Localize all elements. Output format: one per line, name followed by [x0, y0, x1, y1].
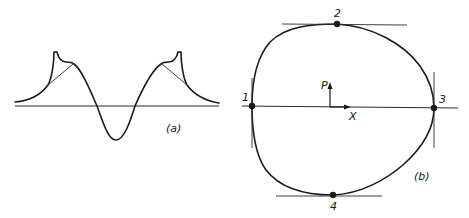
x-axis-label: X — [348, 110, 357, 123]
panel-a-label: (a) — [166, 122, 181, 135]
point-3-marker — [431, 105, 437, 111]
panel-b-label: (b) — [414, 170, 430, 183]
tangent-line-2 — [282, 24, 407, 25]
point-1-marker — [249, 103, 255, 109]
point-4-label: 4 — [330, 200, 337, 213]
figure-canvas: (a) 1 2 3 4 P X (b) — [0, 0, 469, 218]
point-2-marker — [334, 21, 340, 27]
panel-b-closed-curve — [252, 24, 434, 195]
point-1-label: 1 — [242, 91, 249, 104]
p-arrow-icon — [328, 82, 333, 89]
x-arrow-icon — [344, 105, 351, 110]
point-2-label: 2 — [334, 7, 341, 20]
panel-a-waveform — [15, 52, 219, 140]
panel-b: 1 2 3 4 P X (b) — [242, 7, 458, 213]
p-axis-label: P — [321, 79, 328, 92]
panel-a: (a) — [15, 52, 219, 140]
point-3-label: 3 — [439, 93, 446, 106]
point-4-marker — [330, 192, 336, 198]
